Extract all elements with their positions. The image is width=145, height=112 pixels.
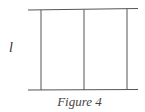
vertical-lines-group: [41, 9, 127, 90]
length-label-l: l: [9, 41, 13, 55]
top-horizontal-line: [28, 9, 138, 11]
bottom-horizontal-line: [28, 90, 138, 91]
figure-caption: Figure 4: [0, 95, 145, 108]
figure-4-diagram: l Figure 4: [0, 0, 145, 112]
